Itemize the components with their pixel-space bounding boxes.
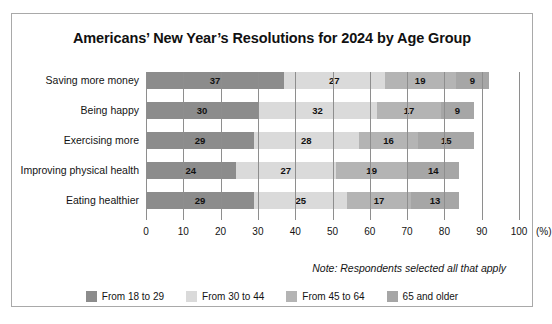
bar-row: Being happy3032179 <box>146 102 519 119</box>
legend-swatch-icon <box>86 291 97 302</box>
bar-segment: 30 <box>146 102 258 119</box>
chart-title: Americans’ New Year’s Resolutions for 20… <box>12 30 532 46</box>
x-axis-tick-label: 20 <box>215 226 226 237</box>
chart-figure-frame: Americans’ New Year’s Resolutions for 20… <box>11 13 533 307</box>
legend-swatch-icon <box>186 291 197 302</box>
legend-item[interactable]: From 30 to 44 <box>186 291 264 302</box>
legend-label: From 18 to 29 <box>102 291 164 302</box>
bar-segment: 24 <box>146 162 236 179</box>
x-axis-tick-label: 80 <box>439 226 450 237</box>
gridline <box>519 72 520 220</box>
x-axis-tick-label: 90 <box>476 226 487 237</box>
bar-segment: 19 <box>385 72 456 89</box>
plot-area: Saving more money3727199Being happy30321… <box>146 72 519 220</box>
legend-label: From 45 to 64 <box>302 291 364 302</box>
bar-segment: 25 <box>254 192 347 209</box>
chart-legend: From 18 to 29From 30 to 44From 45 to 646… <box>12 291 532 302</box>
bar-segment: 29 <box>146 132 254 149</box>
bar-segment: 19 <box>336 162 407 179</box>
bar-segment: 9 <box>441 102 475 119</box>
x-axis-tick-label: 70 <box>402 226 413 237</box>
legend-label: From 30 to 44 <box>202 291 264 302</box>
x-axis-unit-label: (%) <box>536 226 552 237</box>
category-label: Saving more money <box>0 72 139 89</box>
legend-item[interactable]: From 45 to 64 <box>286 291 364 302</box>
x-axis-tick-label: 100 <box>511 226 528 237</box>
bar-row: Saving more money3727199 <box>146 72 519 89</box>
bar-row: Improving physical health24271914 <box>146 162 519 179</box>
bar-row: Eating healthier29251713 <box>146 192 519 209</box>
bar-segment: 9 <box>456 72 490 89</box>
legend-item[interactable]: From 18 to 29 <box>86 291 164 302</box>
category-label: Exercising more <box>0 132 139 149</box>
x-axis-tick-label: 30 <box>252 226 263 237</box>
legend-swatch-icon <box>286 291 297 302</box>
chart-note: Note: Respondents selected all that appl… <box>312 262 506 274</box>
category-label: Improving physical health <box>0 162 139 179</box>
x-axis-tick-label: 0 <box>143 226 149 237</box>
legend-item[interactable]: 65 and older <box>387 291 459 302</box>
bar-segment: 15 <box>418 132 474 149</box>
bar-row: Exercising more29281615 <box>146 132 519 149</box>
bar-segment: 17 <box>347 192 410 209</box>
bar-segment: 37 <box>146 72 284 89</box>
legend-swatch-icon <box>387 291 398 302</box>
x-axis-tick-label: 10 <box>178 226 189 237</box>
bar-segment: 13 <box>411 192 459 209</box>
bar-segment: 32 <box>258 102 377 119</box>
bar-segment: 27 <box>236 162 337 179</box>
category-label: Eating healthier <box>0 192 139 209</box>
bar-segment: 28 <box>254 132 358 149</box>
category-label: Being happy <box>0 102 139 119</box>
bar-segment: 17 <box>377 102 440 119</box>
bar-segment: 29 <box>146 192 254 209</box>
legend-label: 65 and older <box>403 291 459 302</box>
bar-segment: 16 <box>359 132 419 149</box>
bars-layer: Saving more money3727199Being happy30321… <box>146 72 519 220</box>
bar-segment: 14 <box>407 162 459 179</box>
x-axis-tick-label: 60 <box>364 226 375 237</box>
x-axis-tick-label: 50 <box>327 226 338 237</box>
x-axis-tick-label: 40 <box>290 226 301 237</box>
bar-segment: 27 <box>284 72 385 89</box>
